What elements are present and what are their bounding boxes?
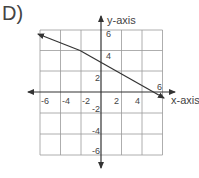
- svg-text:6: 6: [106, 29, 111, 39]
- svg-text:4: 4: [135, 96, 140, 106]
- svg-text:-2: -2: [82, 96, 90, 106]
- coordinate-plane: 6 4 2 -2 -4 -6 -6 -4 -2 2 4 6 y-axis x-a…: [0, 0, 199, 178]
- svg-text:6: 6: [157, 82, 162, 92]
- svg-text:-4: -4: [62, 96, 70, 106]
- svg-text:2: 2: [114, 96, 119, 106]
- svg-text:-2: -2: [92, 104, 100, 114]
- svg-text:-6: -6: [92, 146, 100, 156]
- svg-text:x-axis: x-axis: [171, 94, 199, 106]
- svg-text:-6: -6: [41, 96, 49, 106]
- svg-text:y-axis: y-axis: [107, 14, 136, 26]
- svg-text:-4: -4: [92, 126, 100, 136]
- svg-text:2: 2: [95, 73, 100, 83]
- svg-text:4: 4: [106, 51, 111, 61]
